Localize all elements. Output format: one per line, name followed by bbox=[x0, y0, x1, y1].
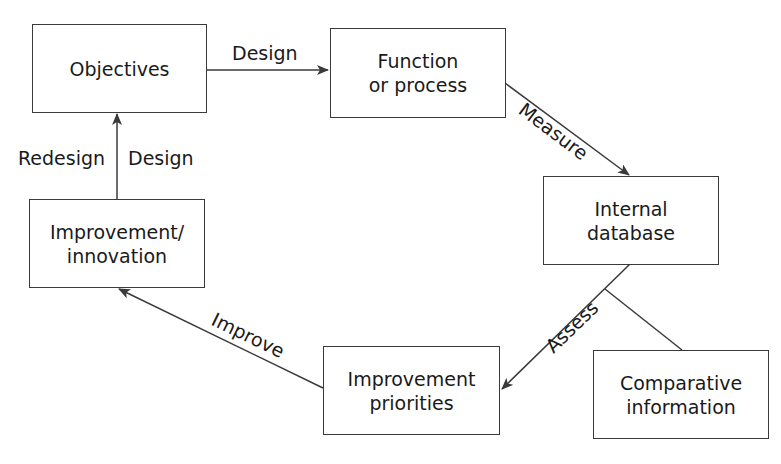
node-label: priorities bbox=[348, 391, 476, 415]
node-comparative-information: Comparative information bbox=[593, 350, 769, 439]
node-label: Comparative bbox=[620, 371, 742, 395]
node-label: Improvement bbox=[348, 367, 476, 391]
node-internal-database: Internal database bbox=[543, 176, 719, 265]
node-function-or-process: Function or process bbox=[330, 28, 506, 118]
comparative-branch-line bbox=[605, 289, 682, 350]
node-label: Improvement/ bbox=[50, 220, 184, 244]
improve-arrow bbox=[119, 289, 323, 388]
node-label: or process bbox=[369, 73, 468, 97]
node-improvement-priorities: Improvement priorities bbox=[323, 346, 500, 435]
node-label: Internal bbox=[587, 197, 675, 221]
node-label: Function bbox=[369, 49, 468, 73]
node-label: database bbox=[587, 221, 675, 245]
edge-label-design-top: Design bbox=[232, 42, 298, 64]
node-label: information bbox=[620, 395, 742, 419]
node-objectives: Objectives bbox=[32, 24, 207, 113]
edge-label-design-left: Design bbox=[128, 147, 194, 169]
node-improvement-innovation: Improvement/ innovation bbox=[29, 199, 205, 288]
node-label: innovation bbox=[50, 244, 184, 268]
edge-label-redesign: Redesign bbox=[18, 147, 105, 169]
node-label: Objectives bbox=[70, 57, 170, 81]
